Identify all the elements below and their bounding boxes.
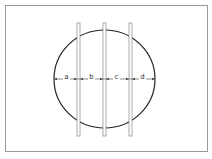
segment-label-c: c [115,73,119,81]
vertical-bar-2 [103,23,106,136]
segment-label-b: b [89,73,94,81]
vertical-bar-3 [129,23,132,136]
vertical-bar-1 [77,23,80,136]
diagram-canvas: a b c d [0,0,212,159]
segment-label-a: a [64,73,68,81]
segment-label-d: d [140,73,144,81]
